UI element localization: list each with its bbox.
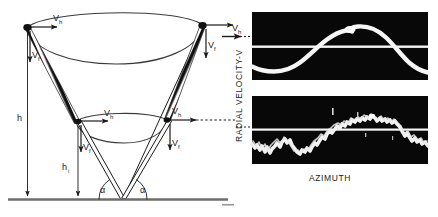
label-alpha-left: α [100,185,105,195]
lower-panel-speckle-2 [357,112,358,117]
figure-svg: h h i α α V h V f V f V h V f V h V f [0,0,438,217]
label-h-full: h [17,113,22,123]
radial-velocity-azimuth-display: V h [222,12,428,183]
upper-panel-zero-line [252,46,428,48]
scan-corner-mark [222,204,234,206]
label-vh-upper-left-sub: h [59,19,62,25]
y-axis-label: RADIAL VELOCITY-V [234,49,244,142]
lower-panel-crest-highlight [369,114,375,118]
label-alpha-right: α [140,185,145,195]
label-vh-lower-right-sub: h [178,112,181,118]
label-h-partial-sub: i [68,168,69,174]
lower-panel-speckle-4 [392,136,393,140]
label-h-partial: h [62,162,67,172]
lower-panel-speckle-1 [332,108,334,115]
label-vh-display-sub: h [238,29,241,35]
upper-trace-panel [252,12,428,80]
figure-root: h h i α α V h V f V f V h V f V h V f [0,0,438,217]
x-axis-label: AZIMUTH [309,173,351,183]
label-vh-lower-left-sub: h [110,114,113,120]
lower-panel-speckle-3 [365,133,366,137]
upper-panel-crest-highlight [345,26,356,33]
lower-trace-panel [252,96,428,164]
